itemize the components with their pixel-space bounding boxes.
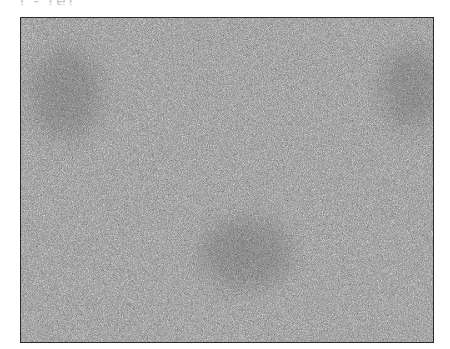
dark-region [31, 48, 101, 138]
dark-region [201, 218, 291, 288]
noise-image [20, 17, 434, 343]
dark-region [381, 48, 434, 128]
cropped-caption: ? - ?e? [18, 0, 76, 5]
